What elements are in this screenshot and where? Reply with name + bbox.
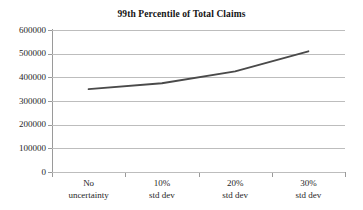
x-axis-category-label-line: std dev (125, 190, 198, 202)
series-polyline (89, 51, 309, 89)
x-axis-category-label-line: 20% (227, 178, 244, 188)
x-axis-category-label: 20%std dev (199, 178, 272, 201)
chart-title: 99th Percentile of Total Claims (0, 9, 363, 19)
y-axis-tick-label: 600000 (0, 26, 46, 35)
plot-area (52, 30, 345, 172)
x-axis-category-label: 30%std dev (272, 178, 345, 201)
y-axis-tick-label: 100000 (0, 144, 46, 153)
x-axis-category-label-line: std dev (199, 190, 272, 202)
y-axis-tick-label: 400000 (0, 73, 46, 82)
x-axis-category-label-line: std dev (272, 190, 345, 202)
x-axis-category-label-line: 10% (154, 178, 171, 188)
y-axis-tick-label: 300000 (0, 97, 46, 106)
x-axis-category-label-line: 30% (300, 178, 317, 188)
x-axis-category-label: Nouncertainty (52, 178, 125, 201)
y-axis-tick (48, 172, 52, 173)
x-axis-category-label-line: uncertainty (52, 190, 125, 202)
x-axis-category-label-line: No (83, 178, 94, 188)
x-axis-tick (345, 172, 346, 177)
series-line-99th-percentile (52, 30, 345, 172)
chart-container: 99th Percentile of Total Claims 01000002… (0, 0, 363, 210)
gridline (52, 172, 345, 173)
y-axis-tick-label: 0 (0, 168, 46, 177)
y-axis-tick-label: 500000 (0, 49, 46, 58)
y-axis-tick-label: 200000 (0, 120, 46, 129)
x-axis-category-label: 10%std dev (125, 178, 198, 201)
